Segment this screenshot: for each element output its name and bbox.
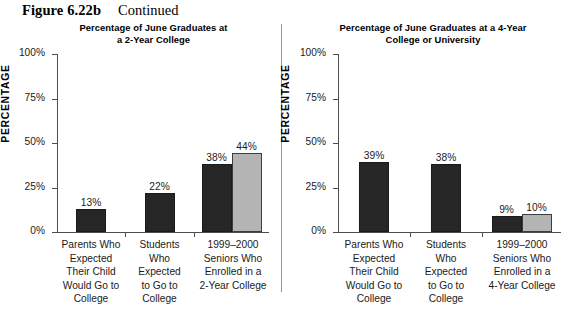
y-axis-title: PERCENTAGE: [280, 56, 291, 152]
y-tick-label-50: 50%: [306, 136, 326, 147]
plot-area-two-year: 100% 75% 50% 25% 0% 13% 22% 38%44%: [57, 54, 269, 233]
bar-dark-13: 13%: [76, 209, 106, 232]
y-tick-label-0: 0%: [30, 225, 45, 236]
bar-group: 9%10%: [482, 214, 561, 232]
bar-value-label: 44%: [236, 141, 256, 152]
figure-number: Figure 6.22b: [22, 2, 101, 18]
bar-light-10: 10%: [522, 214, 552, 232]
x-tick-2: [194, 233, 195, 237]
bar-group: 38%44%: [194, 153, 269, 232]
category-label: 1999–2000 Seniors Who Enrolled in a 2-Ye…: [194, 238, 272, 292]
y-tick-100: 100%: [52, 54, 57, 55]
bar-group: 13%: [57, 209, 125, 232]
chart-title-line-1: Percentage of June Graduates at: [26, 22, 281, 34]
bar-dark-22: 22%: [145, 193, 175, 232]
x-axis-line: [57, 232, 269, 233]
y-tick-25: 25%: [52, 188, 57, 189]
y-axis-line: [57, 54, 58, 233]
chart-panel-two-year: Percentage of June Graduates at a 2-Year…: [0, 22, 281, 322]
figure-status: Continued: [118, 2, 178, 18]
y-tick-label-100: 100%: [19, 47, 45, 58]
bar-dark-9: 9%: [492, 216, 522, 232]
chart-title-two-year: Percentage of June Graduates at a 2-Year…: [0, 22, 281, 47]
chart-title-line-2: College or University: [288, 34, 578, 46]
category-label: Parents Who Expected Their Child Would G…: [338, 238, 410, 306]
y-tick-75: 75%: [52, 99, 57, 100]
y-tick-label-50: 50%: [25, 136, 45, 147]
chart-title-line-1: Percentage of June Graduates at a 4-Year: [288, 22, 578, 34]
bar-value-label: 38%: [436, 152, 456, 163]
category-label: Students Who Expected to Go to College: [125, 238, 194, 306]
x-tick-2: [482, 233, 483, 237]
bar-dark-39: 39%: [359, 162, 389, 232]
y-tick-label-75: 75%: [306, 92, 326, 103]
bar-light-44: 44%: [232, 153, 262, 232]
bar-value-label: 10%: [526, 202, 546, 213]
bar-dark-38: 38%: [431, 164, 461, 232]
x-tick-1: [125, 233, 126, 237]
bar-value-label: 9%: [499, 204, 514, 215]
chart-title-four-year: Percentage of June Graduates at a 4-Year…: [282, 22, 578, 47]
chart-panel-four-year: Percentage of June Graduates at a 4-Year…: [282, 22, 578, 322]
category-label: 1999–2000 Seniors Who Enrolled in a 4-Ye…: [481, 238, 563, 292]
chart-title-line-2: a 2-Year College: [26, 34, 281, 46]
bar-value-label: 39%: [364, 150, 384, 161]
plot-area-four-year: 100% 75% 50% 25% 0% 39% 38% 9%10%: [338, 54, 561, 233]
bar-dark-38: 38%: [202, 164, 232, 232]
y-tick-100: 100%: [333, 54, 338, 55]
y-tick-label-25: 25%: [25, 181, 45, 192]
category-label: Parents Who Expected Their Child Would G…: [57, 238, 125, 306]
bar-group: 38%: [410, 164, 482, 232]
y-tick-75: 75%: [333, 99, 338, 100]
y-tick-label-75: 75%: [25, 92, 45, 103]
y-tick-label-100: 100%: [300, 47, 326, 58]
bar-value-label: 22%: [149, 181, 169, 192]
y-tick-0: 0%: [333, 232, 338, 233]
y-tick-50: 50%: [333, 143, 338, 144]
bar-value-label: 38%: [206, 152, 226, 163]
y-tick-label-0: 0%: [311, 225, 326, 236]
x-axis-line: [338, 232, 561, 233]
bar-group: 39%: [338, 162, 410, 232]
y-tick-0: 0%: [52, 232, 57, 233]
bar-value-label: 13%: [81, 197, 101, 208]
category-label: Students Who Expected to Go to College: [410, 238, 482, 306]
y-tick-label-25: 25%: [306, 181, 326, 192]
bar-group: 22%: [125, 193, 194, 232]
y-tick-50: 50%: [52, 143, 57, 144]
x-tick-1: [410, 233, 411, 237]
y-axis-title: PERCENTAGE: [0, 56, 11, 152]
figure-caption: Figure 6.22bContinued: [22, 2, 179, 19]
